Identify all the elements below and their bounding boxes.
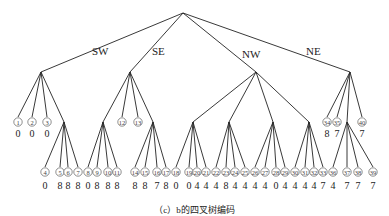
node-id: 10 — [105, 169, 112, 176]
node-id: 21 — [203, 169, 210, 176]
node-id: 35 — [334, 119, 341, 126]
node-value: 4 — [204, 180, 209, 191]
node-value: 4 — [195, 180, 200, 191]
node-value: 0 — [86, 180, 91, 191]
node-id: 1 — [16, 119, 19, 126]
node-id: 18 — [173, 169, 180, 176]
node-id: 3 — [45, 119, 48, 126]
tree-edge — [145, 122, 153, 167]
tree-edge — [183, 13, 350, 72]
node-id: 14 — [132, 169, 139, 176]
node-id: 25 — [242, 169, 249, 176]
node-id: 11 — [114, 169, 120, 176]
node-id: 37 — [344, 169, 351, 176]
tree-edge — [130, 72, 153, 122]
node-value: 0 — [16, 128, 21, 139]
node-id: 39 — [370, 169, 377, 176]
node-id: 33 — [320, 169, 327, 176]
node-id: 8 — [86, 169, 89, 176]
node-id: 12 — [119, 119, 126, 126]
node-id: 31 — [302, 169, 309, 176]
edge-label-nw: NW — [242, 48, 261, 60]
node-value: 8 — [143, 180, 148, 191]
node-id: 15 — [142, 169, 149, 176]
tree-edge — [229, 122, 245, 167]
tree-edge — [130, 72, 138, 117]
node-id: 34 — [324, 119, 331, 126]
node-id: 32 — [311, 169, 318, 176]
edge-label-ne: NE — [306, 45, 321, 57]
node-value: 4 — [303, 180, 308, 191]
node-value: 7 — [345, 180, 350, 191]
tree-edge — [256, 72, 309, 122]
tree-edge — [130, 13, 183, 72]
node-value: 8 — [66, 180, 71, 191]
tree-edge — [97, 122, 103, 167]
node-id: 40 — [359, 119, 366, 126]
node-id: 17 — [163, 169, 170, 176]
tree-edge — [255, 122, 273, 167]
tree-edge — [176, 122, 193, 167]
node-id: 38 — [355, 169, 362, 176]
node-id: 20 — [194, 169, 201, 176]
tree-edge — [350, 72, 362, 117]
node-value: 8 — [76, 180, 81, 191]
node-id: 27 — [262, 169, 269, 176]
node-value: 4 — [253, 180, 258, 191]
tree-edge — [229, 72, 256, 122]
node-value: 8 — [95, 180, 100, 191]
node-id: 28 — [273, 169, 280, 176]
tree-edge — [265, 122, 273, 167]
tree-edge — [347, 122, 358, 167]
tree-edge — [193, 72, 256, 122]
node-value: 8 — [106, 180, 111, 191]
node-value: 0 — [174, 180, 179, 191]
node-value: 0 — [274, 180, 279, 191]
node-value: 7 — [371, 180, 376, 191]
node-value: 8 — [164, 180, 169, 191]
node-value: 4 — [293, 180, 298, 191]
tree-edge — [18, 72, 41, 117]
node-id: 13 — [135, 119, 142, 126]
node-value: 4 — [214, 180, 219, 191]
node-value: 0 — [187, 180, 192, 191]
node-id: 36 — [330, 169, 337, 176]
node-id: 2 — [30, 119, 33, 126]
quadtree-diagram: SWSENWNE10203012133483574074058687880981… — [0, 0, 389, 216]
node-id: 30 — [292, 169, 299, 176]
node-value: 7 — [155, 180, 160, 191]
node-id: 19 — [186, 169, 193, 176]
tree-edge — [41, 13, 183, 72]
node-value: 4 — [331, 180, 336, 191]
node-id: 24 — [232, 169, 239, 176]
node-value: 0 — [45, 128, 50, 139]
figure-caption: （c）b的四叉树编码 — [0, 203, 389, 216]
node-value: 8 — [325, 128, 330, 139]
node-id: 26 — [252, 169, 259, 176]
node-value: 8 — [58, 180, 63, 191]
tree-edge — [229, 122, 235, 167]
node-id: 22 — [213, 169, 220, 176]
node-id: 16 — [154, 169, 161, 176]
node-value: 0 — [43, 180, 48, 191]
node-id: 5 — [58, 169, 61, 176]
node-value: 4 — [283, 180, 288, 191]
node-value: 7 — [321, 180, 326, 191]
node-value: 7 — [356, 180, 361, 191]
tree-edge — [189, 122, 193, 167]
node-value: 7 — [360, 128, 365, 139]
tree-edge — [135, 122, 153, 167]
node-value: 7 — [335, 128, 340, 139]
node-value: 4 — [233, 180, 238, 191]
node-id: 9 — [95, 169, 98, 176]
edge-label-se: SE — [152, 45, 165, 57]
node-id: 29 — [282, 169, 289, 176]
tree-edge — [183, 13, 256, 72]
node-value: 8 — [133, 180, 138, 191]
node-id: 23 — [223, 169, 230, 176]
node-value: 8 — [115, 180, 120, 191]
tree-edge — [88, 122, 103, 167]
node-value: 0 — [30, 128, 35, 139]
node-value: 8 — [224, 180, 229, 191]
node-value: 4 — [263, 180, 268, 191]
